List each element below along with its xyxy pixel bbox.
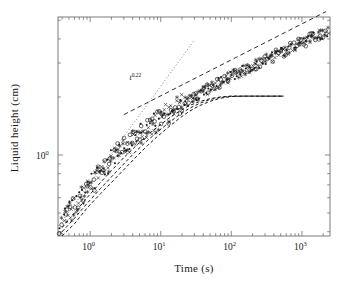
data-point bbox=[169, 104, 172, 107]
data-point bbox=[131, 145, 133, 147]
model-curve bbox=[62, 96, 284, 227]
data-point bbox=[251, 64, 254, 67]
data-point bbox=[231, 74, 233, 76]
data-point bbox=[326, 26, 330, 30]
data-point bbox=[104, 173, 106, 175]
data-point bbox=[234, 78, 236, 80]
y-axis-tick-labels: 100 bbox=[36, 149, 49, 161]
x-tick-label: 102 bbox=[223, 240, 236, 252]
data-point bbox=[110, 149, 112, 151]
data-points bbox=[57, 26, 330, 236]
axis-frame bbox=[58, 17, 330, 236]
data-point bbox=[90, 173, 92, 175]
data-point bbox=[128, 151, 131, 154]
data-point bbox=[139, 124, 143, 128]
data-point bbox=[220, 76, 222, 78]
data-point bbox=[258, 67, 260, 69]
data-point bbox=[187, 105, 189, 107]
data-point bbox=[207, 87, 209, 89]
data-point bbox=[159, 122, 163, 126]
x-tick-label: 103 bbox=[294, 240, 307, 252]
x-tick-label: 100 bbox=[82, 240, 95, 252]
data-point bbox=[210, 88, 212, 90]
data-point bbox=[180, 93, 183, 96]
data-point bbox=[179, 99, 181, 101]
data-point bbox=[175, 95, 179, 99]
data-point bbox=[128, 133, 132, 137]
data-point bbox=[312, 32, 314, 34]
data-point bbox=[92, 178, 96, 182]
data-point bbox=[146, 124, 148, 126]
data-point bbox=[262, 63, 264, 65]
data-point bbox=[271, 51, 273, 53]
y-axis-title: Liquid height (cm) bbox=[8, 84, 21, 173]
data-point bbox=[203, 94, 205, 96]
figure-container: 100101102103 100 t0.22 Time (s) Liquid h… bbox=[0, 0, 353, 281]
data-point bbox=[308, 35, 310, 37]
data-point bbox=[138, 138, 142, 142]
data-point bbox=[245, 67, 247, 69]
data-point bbox=[120, 152, 122, 154]
data-point bbox=[256, 60, 258, 62]
data-point bbox=[184, 100, 186, 102]
data-point bbox=[77, 202, 80, 205]
power-law-label: t0.22 bbox=[129, 72, 141, 82]
data-point bbox=[80, 185, 84, 189]
data-point bbox=[60, 223, 64, 227]
data-point bbox=[93, 171, 97, 175]
data-point bbox=[187, 101, 191, 105]
data-point bbox=[150, 132, 153, 135]
data-point bbox=[58, 227, 60, 229]
data-point bbox=[112, 156, 116, 160]
model-curves bbox=[62, 96, 284, 236]
data-point bbox=[83, 194, 87, 198]
data-point bbox=[67, 214, 70, 217]
data-point bbox=[219, 78, 223, 82]
data-point bbox=[214, 81, 217, 84]
x-axis-tick-labels: 100101102103 bbox=[82, 240, 306, 252]
data-point bbox=[164, 103, 167, 106]
data-point bbox=[158, 118, 160, 120]
x-axis-title: Time (s) bbox=[174, 262, 214, 275]
guide-lines bbox=[59, 12, 326, 226]
data-point bbox=[86, 190, 90, 194]
data-point bbox=[265, 63, 267, 65]
data-point bbox=[107, 173, 109, 175]
chart-annotations: t0.22 bbox=[129, 72, 141, 82]
data-point bbox=[135, 140, 137, 142]
data-point bbox=[75, 195, 77, 197]
data-point bbox=[183, 95, 187, 99]
data-point bbox=[277, 54, 280, 57]
data-point bbox=[82, 202, 84, 204]
data-point bbox=[153, 114, 156, 117]
data-point bbox=[300, 42, 302, 44]
data-point bbox=[149, 122, 151, 124]
data-point bbox=[163, 113, 165, 115]
data-point bbox=[134, 143, 137, 146]
data-point bbox=[163, 108, 166, 111]
data-point bbox=[135, 134, 137, 136]
data-point bbox=[326, 35, 328, 37]
y-tick-label: 100 bbox=[36, 149, 49, 161]
data-point bbox=[295, 47, 297, 49]
data-point bbox=[287, 45, 289, 47]
data-point bbox=[135, 137, 139, 141]
data-point bbox=[68, 201, 70, 203]
data-point bbox=[106, 166, 109, 169]
data-point bbox=[128, 148, 130, 150]
model-curve bbox=[62, 96, 284, 236]
model-curve bbox=[62, 96, 284, 232]
data-point bbox=[141, 135, 144, 138]
data-point bbox=[305, 40, 307, 42]
data-point bbox=[78, 191, 80, 193]
x-tick-label: 101 bbox=[153, 240, 166, 252]
data-point bbox=[175, 99, 178, 102]
data-point bbox=[154, 125, 156, 127]
data-point bbox=[169, 112, 171, 114]
data-point bbox=[114, 162, 116, 164]
data-point bbox=[292, 41, 296, 45]
data-point bbox=[273, 56, 276, 59]
data-point bbox=[97, 176, 100, 179]
data-point bbox=[223, 81, 225, 83]
data-point bbox=[143, 138, 145, 140]
